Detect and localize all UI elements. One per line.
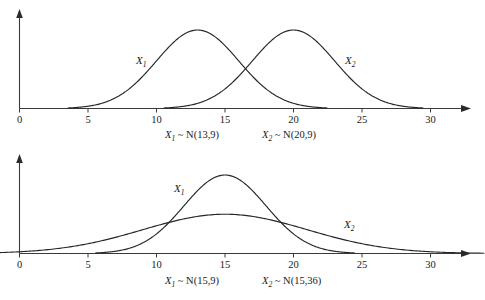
top-x-axis-arrowhead xyxy=(461,105,471,112)
curve-x2-bottom xyxy=(0,214,484,253)
bottom-ticklabel-5: 5 xyxy=(85,259,90,270)
bottom-panel: 0 5 10 15 20 25 30 X1 X2 X1 ~ N(15,9) X2… xyxy=(0,154,484,289)
top-ticklabel-0: 0 xyxy=(17,114,22,125)
caption-x1-bottom: X1 ~ N(15,9) xyxy=(164,275,220,289)
caption-x2-top: X2 ~ N(20,9) xyxy=(261,129,317,143)
top-panel: 0 5 10 15 20 25 30 X1 X2 X1 ~ N(13,9) X2… xyxy=(16,9,471,143)
curve-label-x2-bottom: X2 xyxy=(343,218,355,233)
top-y-axis-arrowhead xyxy=(16,9,23,18)
top-ticklabel-5: 5 xyxy=(85,114,90,125)
curve-x1-top xyxy=(68,30,327,108)
bottom-ticklabel-0: 0 xyxy=(17,259,22,270)
bottom-x-axis-ticks xyxy=(20,254,431,258)
bottom-ticklabel-15: 15 xyxy=(220,259,231,270)
bottom-ticklabel-25: 25 xyxy=(357,259,368,270)
top-x-axis-ticks xyxy=(20,109,431,113)
top-x-axis-tick-labels: 0 5 10 15 20 25 30 xyxy=(17,114,436,125)
curve-label-x1-bottom: X1 xyxy=(173,182,184,197)
curve-label-x2-top: X2 xyxy=(344,54,356,69)
bottom-ticklabel-10: 10 xyxy=(151,259,162,270)
figure-container: 0 5 10 15 20 25 30 X1 X2 X1 ~ N(13,9) X2… xyxy=(0,0,485,300)
bottom-x-axis-tick-labels: 0 5 10 15 20 25 30 xyxy=(17,259,436,270)
curve-label-x1-top: X1 xyxy=(135,54,146,69)
bottom-ticklabel-20: 20 xyxy=(288,259,299,270)
bottom-ticklabel-30: 30 xyxy=(425,259,436,270)
normal-distributions-figure: 0 5 10 15 20 25 30 X1 X2 X1 ~ N(13,9) X2… xyxy=(0,0,485,300)
caption-x1-top: X1 ~ N(13,9) xyxy=(164,129,220,143)
top-ticklabel-20: 20 xyxy=(288,114,299,125)
top-ticklabel-15: 15 xyxy=(220,114,231,125)
bottom-y-axis-arrowhead xyxy=(16,154,23,163)
caption-x2-bottom: X2 ~ N(15,36) xyxy=(261,275,322,289)
top-ticklabel-10: 10 xyxy=(151,114,162,125)
top-ticklabel-25: 25 xyxy=(357,114,368,125)
top-ticklabel-30: 30 xyxy=(425,114,436,125)
curve-x2-top xyxy=(164,30,423,108)
